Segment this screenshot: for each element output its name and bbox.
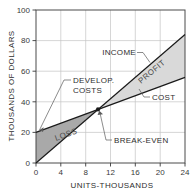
- x-tick-label-8: 8: [83, 168, 88, 177]
- chart-canvas: 0 20 40 60 80 100 0 4 8 12 16 20 24 UNIT…: [0, 0, 196, 195]
- break-even-point-marker: [96, 107, 100, 111]
- x-tick-label-12: 12: [106, 168, 115, 177]
- y-tick-label-0: 0: [26, 159, 31, 168]
- x-axis-ticks: [36, 163, 185, 167]
- x-tick-label-4: 4: [59, 168, 64, 177]
- develop-costs-label-line1: DEVELOP.: [73, 76, 114, 85]
- develop-costs-label-line2: COSTS: [73, 86, 102, 95]
- x-tick-label-16: 16: [131, 168, 140, 177]
- y-tick-label-20: 20: [21, 128, 30, 137]
- y-axis-ticks: [33, 10, 37, 163]
- x-tick-label-20: 20: [156, 168, 165, 177]
- cost-label: COST: [152, 93, 175, 102]
- income-label: INCOME: [102, 48, 136, 57]
- y-tick-label-80: 80: [21, 36, 30, 45]
- x-axis-title: UNITS-THOUSANDS: [71, 181, 154, 190]
- break-even-label: BREAK-EVEN: [114, 136, 169, 145]
- x-tick-label-24: 24: [181, 168, 190, 177]
- y-axis-title: THOUSANDS OF DOLLARS: [7, 30, 16, 141]
- x-tick-label-0: 0: [34, 168, 39, 177]
- y-tick-label-40: 40: [21, 98, 30, 107]
- break-even-chart: 0 20 40 60 80 100 0 4 8 12 16 20 24 UNIT…: [0, 0, 196, 195]
- y-tick-label-100: 100: [17, 6, 31, 15]
- y-tick-label-60: 60: [21, 67, 30, 76]
